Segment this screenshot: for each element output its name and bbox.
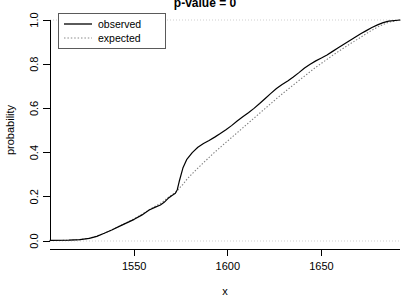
legend-label-observed: observed [98, 18, 141, 30]
y-tick-label: 0.8 [28, 57, 40, 72]
x-tick-label: 1600 [216, 260, 240, 272]
y-tick-label: 0.2 [28, 189, 40, 204]
y-tick-label: 0.6 [28, 101, 40, 116]
y-axis-title: probability [4, 104, 16, 155]
x-axis-title: x [222, 285, 228, 297]
x-tick-label: 1550 [122, 260, 146, 272]
legend-label-expected: expected [98, 32, 141, 44]
y-tick-label: 1.0 [28, 12, 40, 27]
x-tick-label: 1650 [309, 260, 333, 272]
ecdf-figure: p-value = 0 0.00.20.40.60.81.0 155016001… [0, 0, 411, 301]
plot-title: p-value = 0 [174, 0, 237, 10]
y-tick-label: 0.0 [28, 233, 40, 248]
y-tick-label: 0.4 [28, 145, 40, 160]
legend: observed expected [58, 13, 165, 48]
plot-canvas: p-value = 0 0.00.20.40.60.81.0 155016001… [0, 0, 411, 301]
